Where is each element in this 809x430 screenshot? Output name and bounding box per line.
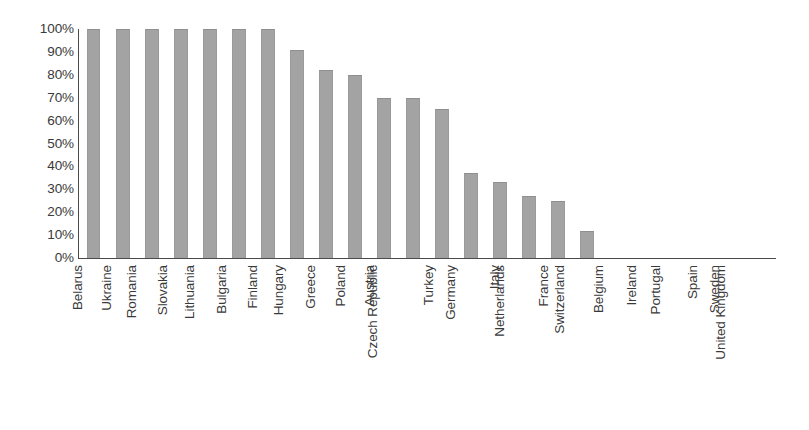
bar[interactable]	[232, 29, 246, 258]
bar-slot	[145, 29, 159, 258]
y-axis-tick-label: 20%	[0, 205, 74, 219]
y-axis-tick-label: 0%	[0, 251, 74, 265]
x-axis-tick-label: Bulgaria	[214, 265, 228, 314]
bar[interactable]	[319, 70, 333, 258]
bar[interactable]	[203, 29, 217, 258]
bar[interactable]	[174, 29, 188, 258]
bar-slot	[232, 29, 246, 258]
bar-slot	[638, 29, 652, 258]
y-axis-tick-label: 50%	[0, 137, 74, 151]
bar-slot	[609, 29, 623, 258]
x-axis: BelarusUkraineRomaniaSlovakiaLithuaniaBu…	[79, 262, 776, 430]
bar-slot	[725, 29, 739, 258]
x-axis-tick-label: United Kingdom	[714, 265, 728, 360]
bar-slot	[667, 29, 681, 258]
y-axis-tick-label: 30%	[0, 182, 74, 196]
x-axis-tick-label: Romania	[125, 265, 139, 318]
bar[interactable]	[145, 29, 159, 258]
x-axis-tick-label: Belgium	[592, 265, 606, 313]
bar-slot	[290, 29, 304, 258]
x-axis-tick-label: France	[537, 265, 551, 306]
x-axis-tick-label: Slovakia	[156, 265, 170, 315]
x-axis-label-slot: United Kingdom	[747, 262, 776, 430]
bar-slot	[261, 29, 275, 258]
bar[interactable]	[261, 29, 275, 258]
bar-slot	[174, 29, 188, 258]
plot-area	[79, 29, 776, 258]
x-axis-label-slot: Germany	[457, 262, 486, 430]
x-axis-tick-label: Poland	[334, 265, 348, 306]
x-axis-tick-label: Ireland	[625, 265, 639, 306]
bar[interactable]	[464, 173, 478, 258]
bar-slot	[493, 29, 507, 258]
bar[interactable]	[116, 29, 130, 258]
bar-slot	[319, 29, 333, 258]
bar[interactable]	[522, 196, 536, 258]
x-axis-tick-label: Finland	[246, 265, 260, 309]
bar-slot	[377, 29, 391, 258]
x-axis-tick-label: Germany	[444, 265, 458, 320]
y-axis-tick-label: 100%	[0, 22, 74, 36]
y-axis-tick-label: 60%	[0, 114, 74, 128]
bar[interactable]	[87, 29, 101, 258]
bar-slot	[755, 29, 769, 258]
bar-slot	[116, 29, 130, 258]
y-axis: 100%90%80%70%60%50%40%30%20%10%0%	[0, 0, 74, 430]
bar[interactable]	[493, 182, 507, 258]
x-axis-tick-label: Belarus	[71, 265, 85, 310]
x-axis-tick-label: Spain	[686, 265, 700, 299]
bar-slot	[696, 29, 710, 258]
bar[interactable]	[290, 50, 304, 258]
x-axis-tick-label: Lithuania	[183, 265, 197, 319]
bar-slot	[203, 29, 217, 258]
y-axis-tick-label: 80%	[0, 68, 74, 82]
x-axis-tick-label: Hungary	[272, 265, 286, 315]
x-axis-tick-label: Netherlands	[493, 265, 507, 337]
bar-slot	[551, 29, 565, 258]
x-axis-tick-label: Switzerland	[553, 265, 567, 334]
bar[interactable]	[406, 98, 420, 258]
bar[interactable]	[580, 231, 594, 258]
x-axis-line	[78, 258, 776, 259]
y-axis-tick-label: 10%	[0, 228, 74, 242]
bar-slot	[522, 29, 536, 258]
y-axis-tick-label: 40%	[0, 159, 74, 173]
bar[interactable]	[348, 75, 362, 258]
x-axis-tick-label: Ukraine	[100, 265, 114, 311]
x-axis-tick-label: Portugal	[650, 265, 664, 314]
bar[interactable]	[377, 98, 391, 258]
bar-slot	[580, 29, 594, 258]
x-axis-tick-label: Greece	[304, 265, 318, 309]
y-axis-tick-label: 70%	[0, 91, 74, 105]
y-axis-tick-label: 90%	[0, 45, 74, 59]
bar-slot	[406, 29, 420, 258]
bar-slot	[464, 29, 478, 258]
bar[interactable]	[435, 109, 449, 258]
bar-slot	[435, 29, 449, 258]
bar[interactable]	[551, 201, 565, 258]
bar-chart: 100%90%80%70%60%50%40%30%20%10%0% Belaru…	[0, 0, 809, 430]
x-axis-tick-label: Turkey	[422, 265, 436, 305]
bar-slot	[348, 29, 362, 258]
bar-slot	[87, 29, 101, 258]
x-axis-tick-label: Czech Republic	[366, 265, 380, 358]
